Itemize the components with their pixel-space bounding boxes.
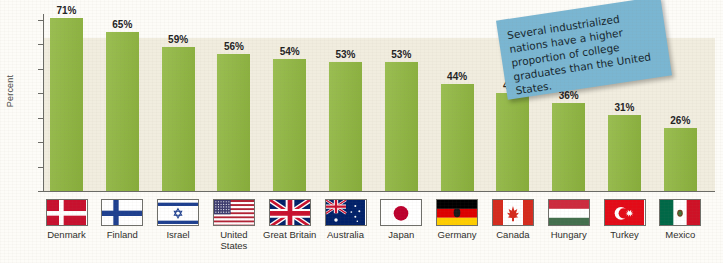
bar-value-label: 44% (441, 71, 474, 82)
country-label-line1: Mexico (646, 229, 714, 240)
flag-denmark-icon (46, 199, 88, 226)
bar (50, 18, 83, 191)
bar-group: 54% (273, 59, 306, 191)
bar (608, 115, 641, 191)
country-label: Mexico (646, 229, 714, 240)
bar-value-label: 53% (385, 49, 418, 60)
bar-value-label: 31% (608, 102, 641, 113)
bar-value-label: 53% (329, 49, 362, 60)
flag-australia-icon (325, 199, 367, 226)
bar-group: 31% (608, 115, 641, 191)
bar-group: 40% (496, 93, 529, 191)
bar-group: 71% (50, 18, 83, 191)
flag-germany-icon (436, 199, 478, 226)
flag-israel-icon (157, 199, 199, 226)
bar (329, 62, 362, 191)
bar-group: 53% (385, 62, 418, 191)
bar (273, 59, 306, 191)
bar-group: 56% (217, 54, 250, 191)
flag-mexico-icon (659, 199, 701, 226)
bar-group: 59% (162, 47, 195, 191)
bar-group: 65% (106, 32, 139, 191)
flag-japan-icon (380, 199, 422, 226)
country-label-line2: States (200, 240, 268, 251)
bar-value-label: 26% (664, 115, 697, 126)
flag-finland-icon (101, 199, 143, 226)
bar (441, 84, 474, 191)
bar-group: 53% (329, 62, 362, 191)
bar-value-label: 59% (162, 34, 195, 45)
bar (162, 47, 195, 191)
bar (496, 93, 529, 191)
bar (664, 128, 697, 192)
bar-value-label: 56% (217, 41, 250, 52)
bar (217, 54, 250, 191)
bar (106, 32, 139, 191)
bar-group: 36% (552, 103, 585, 191)
flag-great-britain-icon (269, 199, 311, 226)
flag-hungary-icon (548, 199, 590, 226)
bar-group: 26% (664, 128, 697, 192)
bar-chart: Percent 010203040506070 71%65%59%56%54%5… (0, 0, 723, 263)
bar-group: 44% (441, 84, 474, 191)
bar-value-label: 54% (273, 46, 306, 57)
flag-united-states-icon (213, 199, 255, 226)
bar-value-label: 71% (50, 5, 83, 16)
bar (385, 62, 418, 191)
bar-value-label: 65% (106, 19, 139, 30)
bar (552, 103, 585, 191)
flag-turkey-icon (604, 199, 646, 226)
flag-canada-icon (492, 199, 534, 226)
